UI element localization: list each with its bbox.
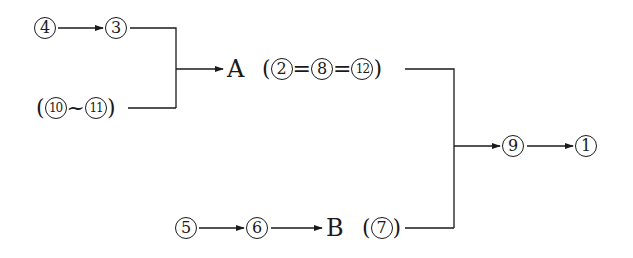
node-5: 5 <box>175 217 197 239</box>
circled-number-2: 2 <box>271 58 293 80</box>
node-B: B <box>326 216 344 240</box>
close-paren: ) <box>373 58 382 80</box>
node-6: 6 <box>246 217 268 239</box>
circled-number-6: 6 <box>246 217 268 239</box>
node-3: 3 <box>105 17 127 39</box>
circled-number-5: 5 <box>175 217 197 239</box>
node-group-7: (7) <box>362 217 401 239</box>
open-paren: ( <box>362 217 371 239</box>
label-A: A <box>227 55 244 83</box>
circled-number-11: 11 <box>85 97 107 119</box>
circled-number-8: 8 <box>311 58 333 80</box>
connector-3-to-merge-A <box>130 28 176 108</box>
equals-sign: = <box>333 58 351 80</box>
open-paren: ( <box>262 58 271 80</box>
close-paren: ) <box>107 97 116 119</box>
range-tilde: ~ <box>67 97 85 119</box>
circled-number-12: 12 <box>351 58 373 80</box>
diagram-connectors <box>0 0 633 258</box>
node-1: 1 <box>575 135 597 157</box>
equals-sign: = <box>293 58 311 80</box>
close-paren: ) <box>393 217 402 239</box>
circled-number-3: 3 <box>105 17 127 39</box>
open-paren: ( <box>36 97 45 119</box>
node-group-10-11: (10~11) <box>36 97 116 119</box>
node-4: 4 <box>34 17 56 39</box>
label-B: B <box>326 214 344 242</box>
circled-number-4: 4 <box>34 17 56 39</box>
circled-number-9: 9 <box>502 135 524 157</box>
circled-number-7: 7 <box>371 217 393 239</box>
node-9: 9 <box>502 135 524 157</box>
circled-number-10: 10 <box>45 97 67 119</box>
node-A: A <box>227 57 244 81</box>
node-group-2-8-12: (2=8=12) <box>262 58 382 80</box>
connector-A-to-merge-9 <box>405 69 454 228</box>
circled-number-1: 1 <box>575 135 597 157</box>
